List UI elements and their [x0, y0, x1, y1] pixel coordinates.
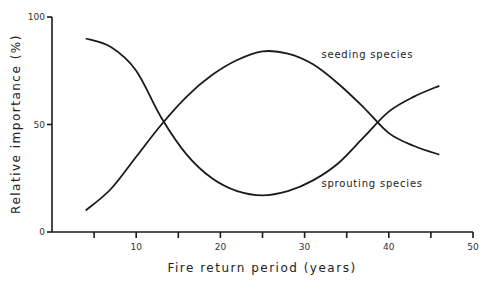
annotation-sprouting-species: sprouting species	[321, 178, 422, 189]
annotation-seeding-species: seeding species	[321, 49, 413, 60]
y-tick-label: 100	[28, 12, 45, 22]
x-tick-label: 50	[467, 242, 479, 252]
y-axis-label: Relative importance (%)	[9, 34, 23, 214]
y-tick-label: 0	[39, 227, 45, 237]
annotations: seeding speciessprouting species	[321, 49, 422, 189]
x-tick-label: 20	[215, 242, 227, 252]
x-ticks: 1020304050	[94, 232, 479, 252]
x-tick-label: 10	[130, 242, 142, 252]
x-tick-label: 40	[383, 242, 395, 252]
y-ticks: 050100	[28, 12, 52, 237]
y-tick-label: 50	[34, 120, 46, 130]
x-tick-label: 30	[299, 242, 311, 252]
x-axis-label: Fire return period (years)	[167, 261, 356, 275]
series-line-sprouting-species	[86, 39, 440, 196]
line-chart: 050100 1020304050 seeding speciessprouti…	[0, 0, 491, 281]
